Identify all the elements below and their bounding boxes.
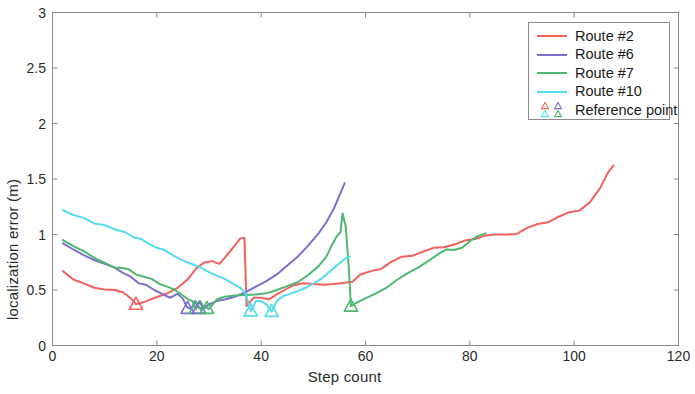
- legend-item: Route #2: [529, 26, 671, 45]
- legend-line-swatch: [535, 63, 569, 82]
- y-tick-label: 3: [2, 5, 46, 21]
- legend-marker-swatch: [535, 100, 569, 119]
- legend-line-swatch: [535, 45, 569, 64]
- legend-item: Route #6: [529, 45, 671, 64]
- y-axis-label: localization error (m): [4, 179, 21, 320]
- legend-swatch-line: [537, 35, 567, 37]
- legend-swatch-line: [537, 54, 567, 56]
- x-tick-label: 20: [127, 348, 187, 364]
- y-tick-label: 1.5: [2, 171, 46, 187]
- legend-label: Route #6: [575, 46, 634, 62]
- legend-line-swatch: [535, 26, 569, 45]
- chart-legend: Route #2Route #6Route #7Route #10Referen…: [528, 22, 670, 120]
- x-tick-label: 60: [336, 348, 396, 364]
- legend-swatch-line: [537, 91, 567, 93]
- legend-label: Route #7: [575, 65, 634, 81]
- x-tick-label: 80: [440, 348, 500, 364]
- y-tick-label: 0: [2, 338, 46, 354]
- y-tick-label: 1: [2, 227, 46, 243]
- x-tick-label: 120: [649, 348, 695, 364]
- legend-label: Reference point: [575, 102, 677, 118]
- legend-triangle-marker: [555, 102, 562, 108]
- legend-item: Route #7: [529, 63, 671, 82]
- x-axis-label: Step count: [0, 368, 689, 385]
- y-tick-label: 2.5: [2, 60, 46, 76]
- legend-label: Route #2: [575, 28, 634, 44]
- legend-triangle-marker: [542, 102, 549, 108]
- reference-point-icon: [538, 101, 566, 118]
- legend-line-swatch: [535, 82, 569, 101]
- series-line-route-10: [63, 210, 350, 312]
- y-tick-label: 2: [2, 116, 46, 132]
- y-tick-label: 0.5: [2, 282, 46, 298]
- x-tick-label: 40: [231, 348, 291, 364]
- legend-item: Reference point: [529, 100, 671, 119]
- legend-item: Route #10: [529, 82, 671, 101]
- legend-triangle-marker: [542, 110, 549, 116]
- legend-swatch-line: [537, 72, 567, 74]
- legend-triangle-marker: [555, 110, 562, 116]
- legend-label: Route #10: [575, 83, 642, 99]
- x-tick-label: 100: [544, 348, 604, 364]
